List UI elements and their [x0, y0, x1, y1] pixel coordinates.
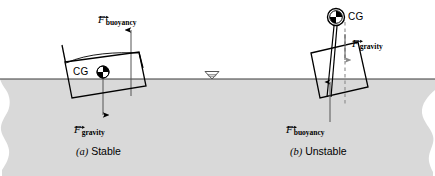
- unstable-cg-label: CG: [348, 12, 364, 22]
- stable-left-post: [62, 45, 66, 63]
- unstable-gravity-symbol-wrap: F: [352, 38, 360, 49]
- unstable-caption-word: Unstable: [305, 145, 346, 157]
- stable-caption: (a) Stable: [76, 146, 121, 158]
- water-level-triangle-icon: [205, 72, 219, 80]
- stable-buoyancy-subscript: buoyancy: [106, 18, 137, 27]
- water-fill: [0, 79, 435, 176]
- unstable-cg-marker: [328, 9, 345, 26]
- stable-gravity-label: Fgravity: [74, 124, 105, 135]
- stable-caption-enum: (a): [76, 146, 88, 157]
- water-body: [0, 79, 435, 176]
- unstable-caption-enum: (b): [290, 146, 302, 157]
- unstable-caption: (b) Unstable: [290, 146, 347, 158]
- stable-buoyancy-symbol-wrap: F: [98, 14, 106, 25]
- unstable-gravity-subscript: gravity: [360, 42, 383, 51]
- diagram-canvas: [0, 0, 435, 176]
- stable-gravity-symbol-wrap: F: [74, 124, 82, 135]
- unstable-buoyancy-subscript: buoyancy: [294, 128, 325, 137]
- unstable-gravity-label: Fgravity: [352, 38, 383, 49]
- stable-right-post: [139, 53, 143, 69]
- stable-gravity-subscript: gravity: [82, 128, 105, 137]
- unstable-buoyancy-label: Fbuoyancy: [286, 124, 325, 135]
- stable-cg-marker: [97, 66, 109, 78]
- stable-caption-word: Stable: [91, 145, 121, 157]
- unstable-buoyancy-symbol-wrap: F: [286, 124, 294, 135]
- buoyancy-stability-figure: Fbuoyancy CG Fgravity (a) Stable CG Fgra…: [0, 0, 435, 176]
- stable-buoyancy-label: Fbuoyancy: [98, 14, 137, 25]
- stable-cg-label: CG: [73, 67, 89, 77]
